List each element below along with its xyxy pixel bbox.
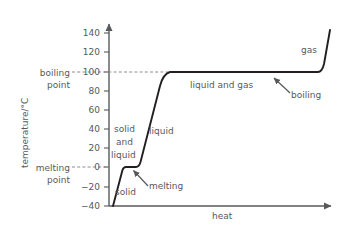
region-label-liquid: liquid [149, 126, 174, 137]
boiling-callout-label: boiling [291, 90, 321, 101]
y-axis-ticks [104, 33, 109, 206]
y-tick-label-minus20: −20 [74, 182, 100, 193]
y-axis-label-container: temperature/°C [8, 60, 22, 170]
y-tick-label-40: 40 [78, 124, 100, 135]
boiling-point-label-line2: point [28, 79, 70, 91]
y-tick-label-140: 140 [78, 28, 100, 39]
region-label-liquid-and-gas: liquid and gas [190, 80, 253, 91]
temperature-vs-heat-chart: temperature/°C 140 120 100 80 60 40 20 0… [0, 0, 347, 229]
boiling-point-label-line1: boiling [28, 67, 70, 79]
y-axis-label: temperature/°C [20, 98, 30, 168]
heating-curve [113, 30, 330, 206]
region-label-solid-and-liquid-line3: liquid [111, 150, 136, 161]
melting-point-label-line1: melting [24, 162, 70, 174]
melting-callout-arrow [134, 171, 149, 187]
region-label-gas: gas [301, 45, 317, 56]
y-tick-label-100: 100 [78, 67, 100, 78]
region-label-solid-and-liquid-line1: solid [114, 124, 135, 135]
x-axis-label: heat [212, 211, 232, 222]
y-tick-label-60: 60 [78, 105, 100, 116]
y-tick-label-80: 80 [78, 86, 100, 97]
boiling-callout-arrow [274, 78, 290, 93]
y-tick-label-120: 120 [78, 47, 100, 58]
y-tick-label-minus40: −40 [74, 201, 100, 212]
y-tick-label-20: 20 [78, 143, 100, 154]
melting-callout-label: melting [149, 181, 183, 192]
chart-canvas [0, 0, 347, 229]
region-label-solid-and-liquid-line2: and [116, 137, 133, 148]
region-label-solid: solid [115, 187, 136, 198]
melting-point-label-line2: point [24, 174, 70, 186]
y-tick-label-0: 0 [78, 162, 100, 173]
